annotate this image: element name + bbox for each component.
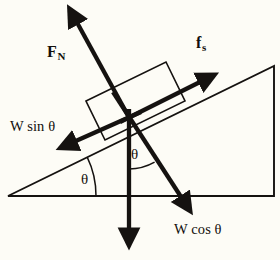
static-friction-symbol: f [196,34,201,51]
incline-force-diagram: FN fs W sin θ W cos θ θ θ [0,0,280,260]
static-friction-subscript: s [202,41,206,53]
normal-force-symbol: F [47,43,57,60]
weight-parallel-label: W sin θ [10,119,55,134]
angle-arcs [87,157,154,196]
upper-angle-label: θ [131,147,138,162]
force-vectors [69,17,206,236]
normal-force-label: FN [47,44,65,60]
base-angle-arc [87,157,96,196]
weight-perpendicular-label: W cos θ [174,222,222,237]
static-friction-label: fs [196,35,206,51]
upper-angle-arc [129,162,155,169]
normal-force-subscript: N [57,50,65,62]
base-angle-label: θ [81,172,88,187]
